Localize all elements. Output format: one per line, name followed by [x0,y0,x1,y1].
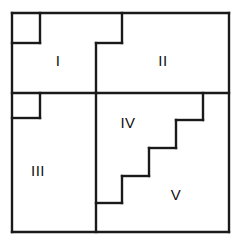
region-label-3: III [31,162,45,179]
region-label-4: IV [120,114,135,131]
partitioned-square-diagram: I II III IV V [0,0,241,245]
region-label-5: V [171,186,182,203]
region-label-2: II [158,52,167,69]
figure-container: I II III IV V [0,0,241,245]
region-label-1: I [56,52,61,69]
